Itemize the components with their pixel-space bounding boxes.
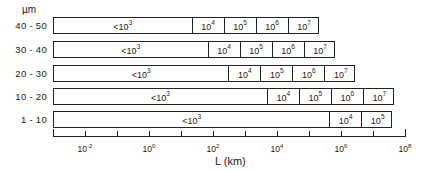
bar-segment: <103 (54, 66, 228, 81)
bar-segment: 105 (361, 112, 393, 127)
bar-segment: 107 (324, 66, 356, 81)
bar-row: <103104105106107 (53, 65, 355, 82)
x-axis-line (53, 136, 405, 137)
bar-row: <103104105 (53, 111, 392, 128)
bar-segment: 106 (256, 18, 288, 33)
row-label: 40 - 50 (0, 20, 47, 31)
bar-segment: 105 (260, 66, 292, 81)
row-label: 10 - 20 (0, 91, 47, 102)
bar-segment: <103 (54, 112, 329, 127)
bar-segment: 105 (224, 18, 256, 33)
bar-segment: 104 (267, 89, 299, 104)
row-label: 20 - 30 (0, 68, 47, 79)
x-tick (213, 131, 214, 137)
x-tick (117, 131, 118, 137)
bar-segment: <103 (54, 18, 192, 33)
x-tick (309, 131, 310, 137)
row-label: 1 - 10 (0, 114, 47, 125)
x-tick-label: 104 (271, 143, 284, 154)
x-tick-label: 10-2 (78, 143, 93, 154)
bar-segment: 105 (299, 89, 331, 104)
bar-segment: 106 (331, 89, 363, 104)
row-label: 30 - 40 (0, 44, 47, 55)
x-axis-title: L (km) (215, 155, 246, 167)
bar-segment: 107 (288, 18, 320, 33)
bar-segment: 106 (272, 42, 304, 57)
bar-segment: 107 (363, 89, 395, 104)
x-tick (405, 129, 406, 137)
bar-segment: <103 (54, 89, 267, 104)
bar-segment: 104 (228, 66, 260, 81)
bar-segment: 105 (240, 42, 272, 57)
bar-row: <103104105106107 (53, 17, 319, 34)
bar-segment: 104 (208, 42, 240, 57)
bar-row: <103104105106107 (53, 41, 335, 58)
x-tick (341, 131, 342, 137)
bar-segment: 107 (304, 42, 336, 57)
bar-segment: 106 (292, 66, 324, 81)
x-tick (245, 131, 246, 137)
x-tick (53, 129, 54, 137)
bar-segment: 104 (329, 112, 361, 127)
x-tick-label: 102 (207, 143, 220, 154)
x-tick (277, 131, 278, 137)
y-unit-label: µm (22, 4, 36, 15)
x-tick-label: 100 (143, 143, 156, 154)
bar-segment: <103 (54, 42, 208, 57)
bar-row: <103104105106107 (53, 88, 394, 105)
x-tick (149, 131, 150, 137)
bar-segment: 104 (192, 18, 224, 33)
x-tick (85, 131, 86, 137)
x-tick-label: 108 (399, 143, 412, 154)
x-tick-label: 106 (335, 143, 348, 154)
x-tick (373, 131, 374, 137)
x-tick (181, 131, 182, 137)
